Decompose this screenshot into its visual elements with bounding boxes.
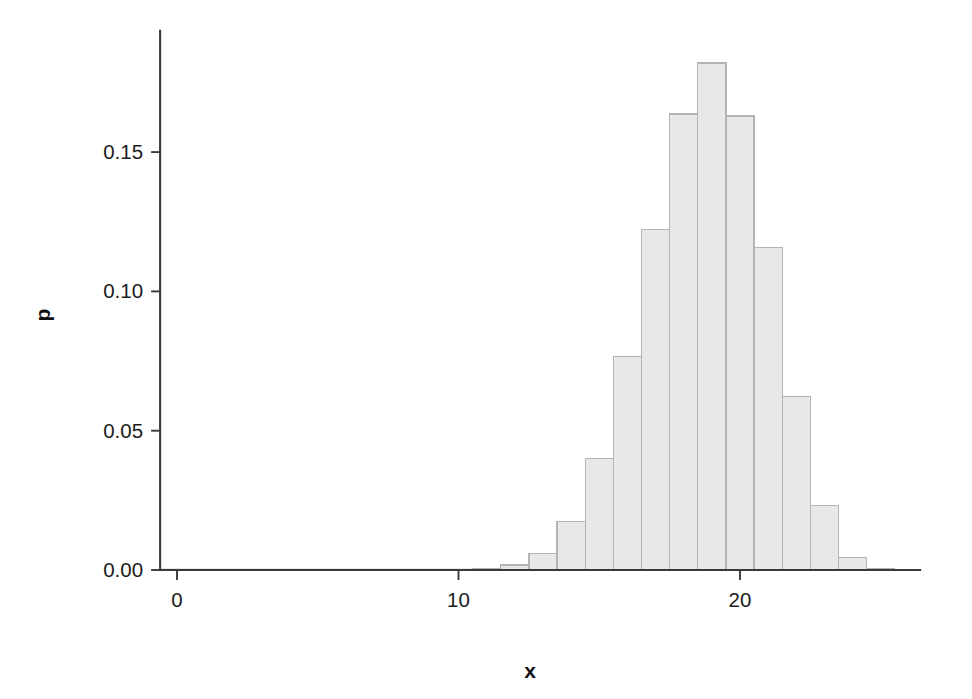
bar [726, 116, 754, 570]
bar [641, 229, 669, 570]
bar [782, 396, 810, 570]
bar [698, 63, 726, 570]
bar [754, 248, 782, 570]
y-ticks-group: 0.000.050.100.15 [103, 140, 160, 581]
chart-figure: 0.000.050.100.15 01020 p x [0, 0, 972, 699]
y-tick-label: 0.15 [103, 140, 143, 163]
y-tick-label: 0.05 [103, 419, 143, 442]
bar [557, 521, 585, 570]
bar [670, 114, 698, 570]
x-tick-label: 20 [729, 588, 752, 611]
x-tick-label: 0 [171, 588, 182, 611]
bar [613, 356, 641, 570]
bar [839, 558, 867, 570]
y-tick-label: 0.00 [103, 558, 143, 581]
bar [810, 505, 838, 570]
probability-histogram-svg: 0.000.050.100.15 01020 p x [0, 0, 972, 699]
y-axis-title: p [31, 309, 54, 322]
y-tick-label: 0.10 [103, 279, 143, 302]
bar [529, 554, 557, 570]
x-tick-label: 10 [447, 588, 470, 611]
bars-group [160, 63, 895, 570]
x-ticks-group: 01020 [171, 570, 751, 611]
bar [585, 459, 613, 570]
x-axis-title: x [524, 659, 536, 682]
